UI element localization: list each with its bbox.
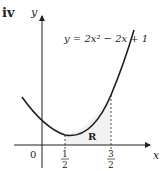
tick-half-denominator: 2	[62, 160, 68, 170]
parabola-diagram: iv y x 0 y = 2x² − 2x + 1 R 1 2 3 2	[0, 0, 166, 171]
tick-three-halves-denominator: 2	[108, 160, 114, 170]
x-axis-label: x	[153, 149, 160, 162]
parabola-curve	[22, 30, 134, 136]
y-axis-label: y	[30, 6, 38, 19]
tick-three-halves-numerator: 3	[108, 149, 114, 159]
equation-label: y = 2x² − 2x + 1	[63, 33, 148, 44]
part-label: iv	[2, 5, 15, 20]
tick-half-numerator: 1	[62, 149, 68, 159]
region-label: R	[88, 131, 97, 142]
origin-label: 0	[30, 149, 36, 160]
